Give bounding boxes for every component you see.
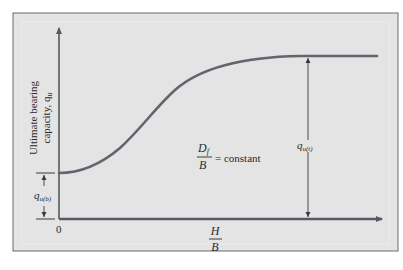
y-axis-label-line2: capacity, qu [40,93,54,144]
annotation-fraction-denominator: B [199,158,207,172]
bearing-capacity-diagram: Ultimate bearing capacity, qu qu(b) qu(t… [0,0,403,270]
annotation-constant: = constant [215,152,261,164]
x-axis-label-numerator: H [210,224,221,238]
x-axis-label-denominator: B [211,240,219,254]
origin-label: 0 [56,223,62,235]
y-axis-label: Ultimate bearing [27,80,39,155]
figure-panel [13,13,398,251]
